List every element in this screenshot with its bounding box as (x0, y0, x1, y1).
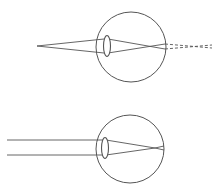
refracted-light-ray (108, 44, 165, 53)
refracted-light-ray (106, 148, 155, 155)
hyperopia-diagram (0, 0, 222, 191)
eye-lens (104, 36, 111, 57)
incoming-light-ray (37, 39, 104, 46)
eye-diagram-distant-object (7, 115, 164, 183)
incoming-light-ray (37, 46, 104, 53)
eye-lens (102, 138, 109, 159)
diverging-light-ray (155, 146, 164, 148)
diverging-light-ray (155, 148, 164, 150)
refracted-light-ray (106, 140, 155, 148)
refracted-light-ray (108, 39, 165, 49)
eye-diagram-near-object (37, 12, 212, 82)
